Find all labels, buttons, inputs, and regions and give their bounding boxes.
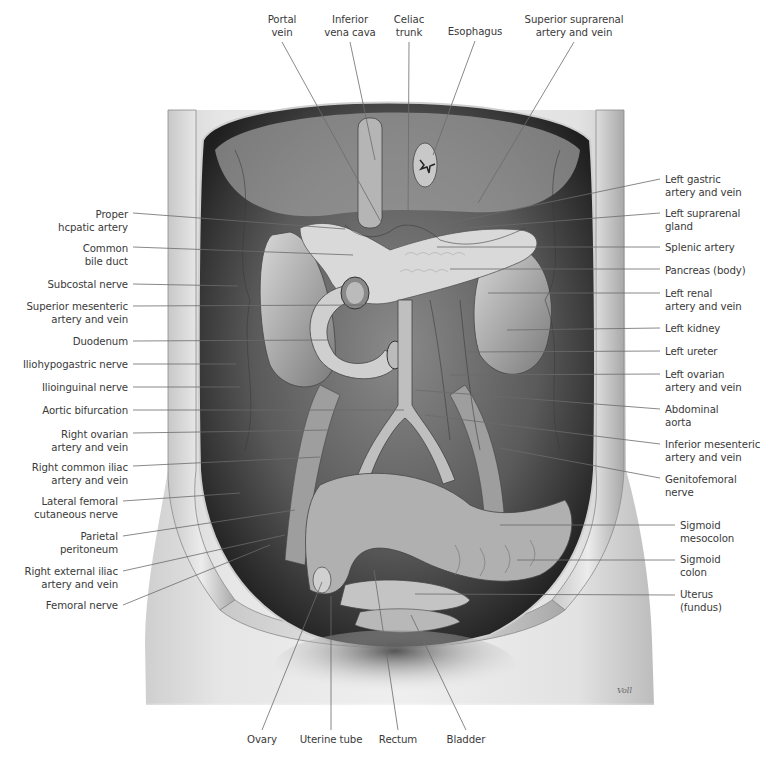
label-splenic-artery: Splenic artery [665,241,735,254]
anatomy-figure: Portal veinInferior vena cavaCeliac trun… [0,0,781,775]
label-sigmoid-colon: Sigmoid colon [680,553,721,579]
pubic-region [275,630,515,700]
label-lateral-femoral-cutaneous: Lateral femoral cutaneous nerve [34,495,118,521]
label-left-ureter: Left ureter [665,345,717,358]
label-right-common-iliac: Right common iliac artery and vein [32,461,128,487]
label-superior-mesenteric: Superior mesenteric artery and vein [26,300,128,326]
label-left-kidney: Left kidney [665,322,720,335]
label-sigmoid-mesocolon: Sigmoid mesocolon [680,519,734,545]
label-inferior-mesenteric: Inferior mesenteric artery and vein [665,438,760,464]
label-bladder: Bladder [421,733,511,746]
label-femoral-nerve: Femoral nerve [46,599,118,612]
label-genitofemoral-nerve: Genitofemoral nerve [665,473,737,499]
label-aortic-bifurcation: Aortic bifurcation [42,404,128,417]
label-right-external-iliac: Right external iliac artery and vein [24,565,118,591]
label-left-gastric: Left gastric artery and vein [665,173,742,199]
label-uterus-fundus: Uterus (fundus) [680,588,722,614]
diaphragm [215,113,580,217]
label-duodenum: Duodenum [73,335,128,348]
label-abdominal-aorta: Abdominal aorta [665,403,719,429]
label-subcostal-nerve: Subcostal nerve [47,278,128,291]
label-ilioinguinal-nerve: Ilioinguinal nerve [42,381,128,394]
label-common-bile-duct: Common bile duct [83,242,128,268]
ovary-shape [313,567,331,593]
label-parietal-peritoneum: Parietal peritoneum [60,530,118,556]
label-pancreas-body: Pancreas (body) [665,264,746,277]
label-superior-suprarenal: Superior suprarenal artery and vein [514,13,634,39]
label-left-renal: Left renal artery and vein [665,287,742,313]
label-iliohypogastric-nerve: Iliohypogastric nerve [23,358,128,371]
label-proper-hepatic-artery: Proper hcpatic artery [58,208,128,234]
label-left-ovarian: Left ovarian artery and vein [665,368,742,394]
label-right-ovarian: Right ovarian artery and vein [51,428,128,454]
label-left-suprarenal-gland: Left suprarenal gland [665,207,740,233]
artist-signature: Voll [617,686,632,695]
